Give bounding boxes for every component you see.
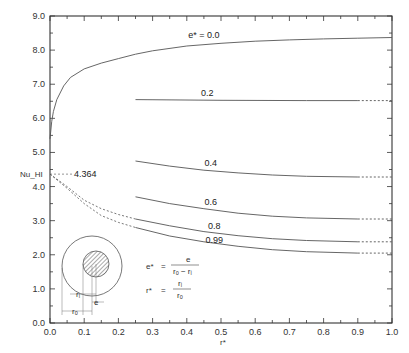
x-tick-label: 0.5 [215, 327, 228, 337]
x-tick-label: 0.4 [181, 327, 194, 337]
curve-label: 0.8 [208, 221, 221, 231]
curve-line [136, 219, 358, 242]
plot-frame [50, 16, 392, 323]
curve-label: e* = 0.0 [188, 30, 219, 40]
x-tick-label: 0.1 [78, 327, 91, 337]
y-tick-label: 1.0 [32, 284, 45, 294]
y-tick-label: 6.0 [32, 113, 45, 123]
x-tick-label: 0.8 [317, 327, 330, 337]
svg-text:rᵢ: rᵢ [178, 279, 182, 288]
plot-area-border [50, 16, 392, 323]
y-tick-label: 5.0 [32, 147, 45, 157]
svg-text:rₒ − rᵢ: rₒ − rᵢ [173, 267, 192, 276]
curve-dashed-lead-in [50, 174, 136, 219]
y-tick-label: 9.0 [32, 11, 45, 21]
curve-line [136, 161, 358, 177]
svg-text:r*: r* [146, 286, 152, 295]
svg-text:e*: e* [146, 262, 154, 271]
y-tick-label: 4.0 [32, 182, 45, 192]
curve-labels: e* = 0.00.20.40.60.80.99 [188, 30, 223, 245]
curve-dashed-lead-in [50, 174, 136, 227]
x-tick-label: 0.3 [146, 327, 159, 337]
curve-label: 0.99 [205, 235, 223, 245]
y-axis-title: Nu_HI [20, 170, 43, 179]
diagram-label-ri: rᵢ [76, 290, 80, 299]
curves [50, 38, 392, 254]
x-tick-label: 0.0 [44, 327, 57, 337]
x-axis-title: r* [220, 338, 226, 347]
svg-text:e: e [186, 255, 191, 264]
y-tick-label: 7.0 [32, 79, 45, 89]
curve-label: 0.6 [204, 197, 217, 207]
diagram-label-ro: rₒ [72, 307, 78, 316]
formula-r-star: r* = rᵢ rₒ [146, 279, 191, 300]
x-tick-label: 0.6 [249, 327, 262, 337]
curve-line [136, 100, 358, 101]
reference-value-label: 4.364 [74, 169, 97, 179]
chart: 0.00.10.20.30.40.50.60.70.80.91.00.01.02… [0, 0, 409, 353]
x-tick-label: 0.2 [112, 327, 125, 337]
x-tick-label: 1.0 [386, 327, 399, 337]
curve-line [136, 228, 358, 254]
curve-label: 0.2 [201, 88, 214, 98]
curve-line [136, 197, 358, 219]
y-tick-label: 3.0 [32, 216, 45, 226]
y-tick-label: 8.0 [32, 45, 45, 55]
svg-text:=: = [161, 262, 166, 271]
svg-text:=: = [161, 286, 166, 295]
curve-line [50, 38, 392, 139]
x-tick-label: 0.7 [283, 327, 296, 337]
y-tick-label: 0.0 [32, 318, 45, 328]
svg-text:rₒ: rₒ [177, 291, 183, 300]
formula-e-star: e* = e rₒ − rᵢ [146, 255, 199, 276]
diagram-label-e: e [94, 298, 99, 307]
x-tick-label: 0.9 [352, 327, 365, 337]
curve-label: 0.4 [204, 158, 217, 168]
y-tick-label: 2.0 [32, 250, 45, 260]
annulus-diagram: rᵢ e rₒ [62, 236, 122, 316]
